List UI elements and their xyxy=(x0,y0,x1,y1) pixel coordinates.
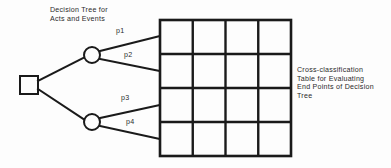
branch-p2 xyxy=(100,59,160,71)
root-edge-upper xyxy=(38,57,85,81)
cross-classification-table-caption: Cross-classification Table for Evaluatin… xyxy=(297,66,374,100)
decision-tree-figure: Decision Tree for Acts and Events Cross-… xyxy=(0,0,391,168)
branch-label-p3: p3 xyxy=(121,94,129,102)
branch-p3 xyxy=(100,105,160,118)
root-edge-lower xyxy=(38,89,85,120)
root-decision-node[interactable] xyxy=(20,76,38,94)
decision-tree-caption: Decision Tree for Acts and Events xyxy=(50,6,108,23)
branch-label-p1: p1 xyxy=(116,27,124,35)
chance-node-lower[interactable] xyxy=(84,114,100,130)
branch-label-p4: p4 xyxy=(126,118,134,126)
branch-p1 xyxy=(100,36,160,51)
branch-p4 xyxy=(100,126,160,139)
branch-label-p2: p2 xyxy=(124,51,132,59)
chance-node-upper[interactable] xyxy=(84,47,100,63)
